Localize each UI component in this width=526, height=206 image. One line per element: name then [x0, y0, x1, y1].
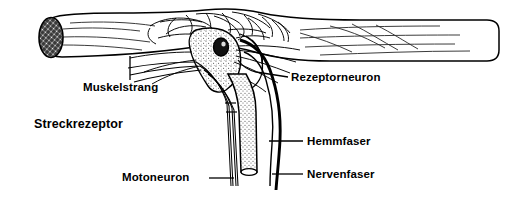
label-streckrezeptor: Streckrezeptor [34, 118, 123, 131]
streckrezeptor-diagram: Muskelstrang Rezeptorneuron Streckrezept… [0, 0, 526, 206]
label-motoneuron: Motoneuron [122, 172, 189, 184]
label-muskelstrang: Muskelstrang [83, 82, 158, 94]
receptor-cell-nucleus [214, 38, 229, 56]
cross-hatched-cut-end [39, 18, 63, 58]
muscle-strand-shape [39, 9, 499, 61]
label-rezeptorneuron: Rezeptorneuron [291, 72, 381, 84]
diagram-canvas [0, 0, 526, 206]
label-nervenfaser: Nervenfaser [307, 169, 375, 181]
label-hemmfaser: Hemmfaser [307, 136, 371, 148]
